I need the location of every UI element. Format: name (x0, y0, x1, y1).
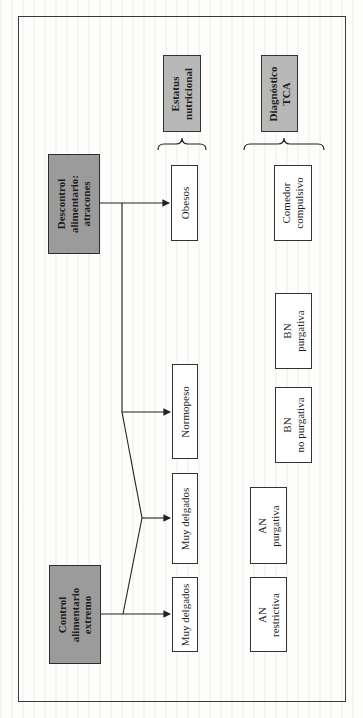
status-muy-delgados-upper-box: Muy delgados (172, 473, 198, 564)
diagonal-upper (122, 412, 142, 518)
source-descontrol-box: Descontrol alimentario: atracones (48, 154, 100, 254)
diag-an-purgativa-label: AN purgativa (256, 505, 281, 546)
source-control-box: Control alimentario extremo (49, 565, 101, 664)
diag-an-purgativa-box: AN purgativa (250, 487, 287, 564)
source-descontrol-label: Descontrol alimentario: atracones (55, 175, 93, 233)
diagonal-lower (123, 518, 142, 614)
header-estatus-label: Estatus nutricional (169, 68, 194, 120)
diag-bn-no-purgativa-label: BN no purgativa (281, 397, 306, 452)
diag-comedor-label: Comedor compulsivo (280, 177, 305, 228)
status-muy-delgados-lower-box: Muy delgados (172, 577, 198, 652)
diag-bn-no-purgativa-box: BN no purgativa (275, 387, 312, 463)
header-diagnostico-box: Diagnóstico TCA (261, 55, 298, 132)
status-muy-delgados-upper-label: Muy delgados (179, 487, 192, 550)
diag-comedor-box: Comedor compulsivo (274, 165, 312, 241)
diag-bn-purgativa-box: BN purgativa (275, 293, 312, 369)
header-diagnostico-label: Diagnóstico TCA (267, 66, 292, 121)
status-muy-delgados-lower-label: Muy delgados (179, 583, 192, 646)
status-normopeso-box: Normopeso (172, 364, 198, 459)
status-obesos-box: Obesos (171, 165, 198, 241)
diag-an-restrictiva-box: AN restrictiva (250, 577, 287, 652)
header-estatus-box: Estatus nutricional (163, 55, 201, 132)
diag-an-restrictiva-label: AN restrictiva (256, 593, 281, 637)
brace-estatus (158, 138, 206, 150)
status-normopeso-label: Normopeso (179, 386, 192, 437)
status-obesos-label: Obesos (178, 187, 191, 219)
source-control-label: Control alimentario extremo (56, 587, 94, 641)
brace-diagnostico (244, 138, 324, 150)
diag-bn-purgativa-label: BN purgativa (281, 310, 306, 351)
